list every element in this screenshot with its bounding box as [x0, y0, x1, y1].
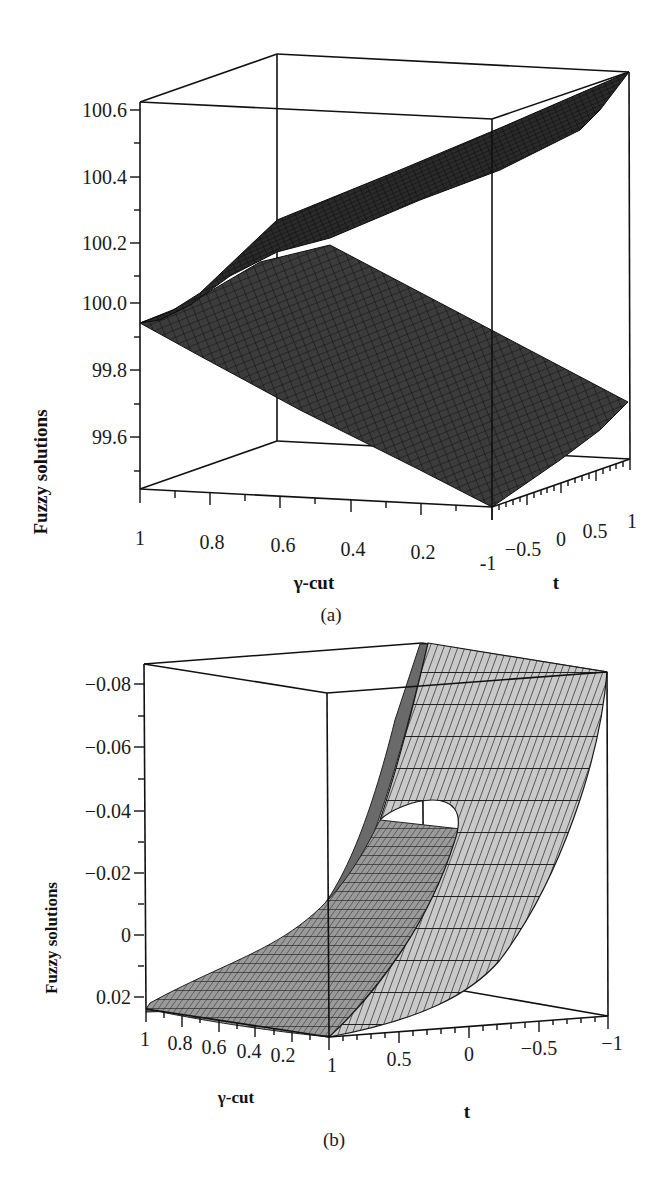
- t-tick-label: 1: [327, 1054, 337, 1076]
- panel-a-z-axis-title: Fuzzy solutions: [30, 409, 51, 534]
- t-tick-label: −1: [601, 1032, 622, 1054]
- t-tick-label: 0.5: [583, 520, 608, 542]
- z-tick-label: 99.8: [92, 359, 127, 381]
- panel-b-t-axis-title: t: [464, 1101, 471, 1122]
- figure-canvas: 100.6 100.4 100.2 100.0 99.8 99.6 1 0.8 …: [0, 0, 663, 1188]
- z-tick-label: 99.6: [92, 426, 127, 448]
- z-tick-label: −0.02: [85, 862, 131, 884]
- panel-a-t-axis-title: t: [553, 572, 560, 593]
- panel-b: −0.08 −0.06 −0.04 −0.02 0 0.02 1 0.8 0.6…: [42, 643, 623, 1151]
- gamma-tick-label: 1: [140, 1028, 150, 1050]
- t-tick-label: -1: [480, 552, 497, 574]
- t-tick-label: 1: [627, 510, 637, 532]
- panel-a-gamma-axis: 1 0.8 0.6 0.4 0.2: [135, 489, 492, 563]
- gamma-tick-label: 0.6: [202, 1036, 227, 1058]
- z-tick-label: −0.08: [85, 673, 131, 695]
- gamma-tick-label: 0.8: [168, 1032, 193, 1054]
- panel-b-z-axis: −0.08 −0.06 −0.04 −0.02 0 0.02: [85, 673, 144, 1008]
- z-tick-label: 100.2: [82, 232, 127, 254]
- z-tick-label: 100.4: [82, 166, 127, 188]
- panel-a: 100.6 100.4 100.2 100.0 99.8 99.6 1 0.8 …: [30, 54, 637, 626]
- panel-a-caption: (a): [320, 604, 341, 626]
- t-tick-label: 0: [464, 1043, 474, 1065]
- t-tick-label: 0: [556, 528, 566, 550]
- z-tick-label: 100.6: [82, 99, 127, 121]
- gamma-tick-label: 0.2: [271, 1044, 296, 1066]
- gamma-tick-label: 0.8: [200, 531, 225, 553]
- z-tick-label: 0: [121, 924, 131, 946]
- z-tick-label: −0.06: [85, 736, 131, 758]
- panel-b-z-axis-title: Fuzzy solutions: [42, 882, 61, 994]
- gamma-tick-label: 0.6: [271, 534, 296, 556]
- t-tick-label: −0.5: [505, 538, 541, 560]
- panel-a-z-axis: 100.6 100.4 100.2 100.0 99.8 99.6: [82, 99, 140, 471]
- panel-b-gamma-axis-title: γ-cut: [217, 1088, 255, 1107]
- z-tick-label: 0.02: [96, 986, 131, 1008]
- t-tick-label: −0.5: [521, 1037, 557, 1059]
- gamma-tick-label: 0.2: [411, 541, 436, 563]
- panel-a-gamma-axis-title: γ-cut: [293, 572, 335, 593]
- z-tick-label: 100.0: [82, 292, 127, 314]
- z-tick-label: −0.04: [85, 800, 131, 822]
- t-tick-label: 0.5: [387, 1048, 412, 1070]
- gamma-tick-label: 0.4: [237, 1040, 262, 1062]
- gamma-tick-label: 1: [135, 527, 145, 549]
- panel-b-caption: (b): [323, 1129, 345, 1151]
- gamma-tick-label: 0.4: [341, 538, 366, 560]
